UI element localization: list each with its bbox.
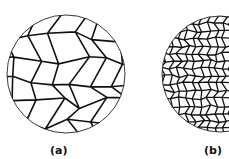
panel-a: (a) [0,0,199,159]
panel-label-b: (b) [204,144,222,157]
panel-b: (b) [153,7,229,157]
grain-boundary-network [0,0,199,159]
grain-boundaries-b [153,7,229,153]
panel-label-a: (a) [50,144,67,157]
grain-boundary-network [153,7,229,153]
figure: (a) (b) [0,0,229,159]
grain-boundaries-a [0,0,199,159]
